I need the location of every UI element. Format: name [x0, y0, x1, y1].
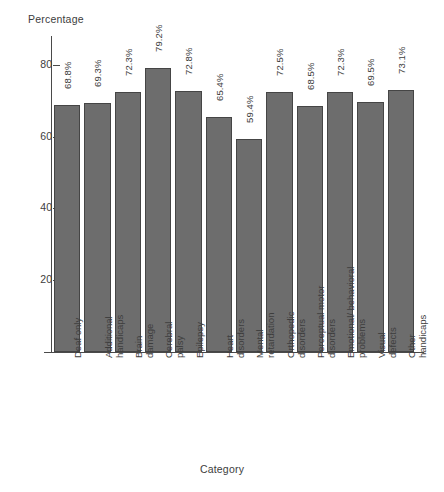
- x-axis-category-label: Epilepsy: [194, 322, 205, 358]
- x-axis-category-label: Orthopedicdisorders: [285, 312, 307, 358]
- y-axis-tick-label: 40: [26, 201, 52, 213]
- y-axis-tick-label: 60: [26, 130, 52, 142]
- bar-group[interactable]: 79.2%: [145, 36, 171, 352]
- bar[interactable]: [206, 117, 232, 352]
- bar-group[interactable]: 72.3%: [115, 36, 141, 352]
- y-axis-tick-label: 80: [26, 58, 52, 70]
- bar[interactable]: [54, 105, 80, 352]
- bar-value-label: 72.3%: [335, 49, 346, 76]
- bar-value-label: 69.3%: [92, 60, 103, 87]
- bar-value-label: 72.8%: [183, 47, 194, 74]
- bar-value-label: 69.5%: [365, 59, 376, 86]
- bar-value-label: 72.5%: [274, 48, 285, 75]
- x-axis-category-label: Visualdefects: [376, 327, 398, 358]
- bar[interactable]: [175, 91, 201, 352]
- bar-group[interactable]: 72.8%: [175, 36, 201, 352]
- bar-value-label: 73.1%: [395, 46, 406, 73]
- bar-group[interactable]: 72.5%: [266, 36, 292, 352]
- bar-value-label: 59.4%: [244, 95, 255, 122]
- x-axis-category-label: Deaf only: [72, 318, 83, 358]
- bar-group[interactable]: 65.4%: [206, 36, 232, 352]
- bar-group[interactable]: 73.1%: [388, 36, 414, 352]
- bar-group[interactable]: 68.8%: [54, 36, 80, 352]
- x-axis-category-label: Emotional/ behavioralproblems: [345, 267, 367, 358]
- bar-group[interactable]: 69.3%: [84, 36, 110, 352]
- x-axis-category-label: Heartdisorders: [224, 319, 246, 358]
- x-axis-category-label: Additionalhandicaps: [103, 315, 125, 358]
- y-axis-tick: 40: [8, 208, 52, 209]
- x-axis-category-label: Perceptual motordisorders: [315, 286, 337, 358]
- y-axis-tick: 60: [8, 137, 52, 138]
- y-axis-tick: 80: [8, 65, 52, 66]
- x-axis-category-label: Mentalretardation: [254, 313, 276, 358]
- y-axis-tick-label: 20: [26, 273, 52, 285]
- y-axis-title: Percentage: [28, 13, 84, 25]
- bar-value-label: 65.4%: [213, 74, 224, 101]
- bar-chart: Percentage 20406080 68.8%69.3%72.3%79.2%…: [0, 0, 444, 492]
- x-axis-category-label: Otherhandicaps: [406, 315, 428, 358]
- bar[interactable]: [388, 90, 414, 352]
- bar-group[interactable]: 59.4%: [236, 36, 262, 352]
- bar-value-label: 68.5%: [304, 63, 315, 90]
- bar[interactable]: [145, 68, 171, 352]
- x-axis-category-label: Cerebralpalsy: [163, 322, 185, 358]
- bar-value-label: 72.3%: [122, 49, 133, 76]
- bar-value-label: 79.2%: [153, 24, 164, 51]
- x-axis-category-label: Braindamage: [133, 324, 155, 358]
- bar[interactable]: [115, 92, 141, 352]
- y-axis-tick: 20: [8, 280, 52, 281]
- bar-value-label: 68.8%: [62, 62, 73, 89]
- x-axis-title: Category: [0, 463, 444, 475]
